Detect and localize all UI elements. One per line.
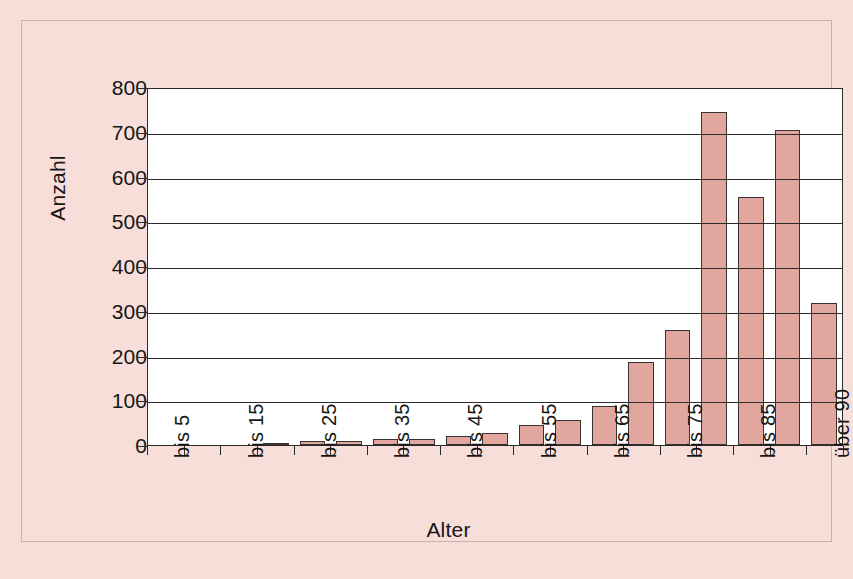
y-tick-label: 400 (73, 255, 147, 279)
bar-slot (367, 89, 404, 445)
x-tick-label-text: bis 35 (391, 403, 414, 458)
x-tick-label-text: bis 45 (464, 403, 487, 458)
x-tick-label-text: bis 5 (171, 415, 194, 458)
y-tick-mark (138, 222, 147, 223)
x-tick-mark (660, 446, 661, 455)
x-tick-label-text: bis 75 (684, 403, 707, 458)
x-tick-mark (513, 446, 514, 455)
y-tick-mark (138, 357, 147, 358)
y-tick-mark (138, 88, 147, 89)
bar-slot (769, 89, 806, 445)
gridline (148, 134, 842, 135)
x-tick-label-text: über 90 (831, 389, 853, 458)
y-tick-mark (138, 446, 147, 447)
bar-slot (733, 89, 770, 445)
y-tick-label: 500 (73, 210, 147, 234)
x-tick-label-text: bis 55 (538, 403, 561, 458)
bar-slot (294, 89, 331, 445)
x-tick-label-text: bis 15 (245, 403, 268, 458)
y-tick-mark (138, 178, 147, 179)
bar-slot (221, 89, 258, 445)
y-tick-mark (138, 133, 147, 134)
y-tick-label: 300 (73, 300, 147, 324)
x-tick-mark (294, 446, 295, 455)
bar-slot (586, 89, 623, 445)
bar-slot (477, 89, 514, 445)
bar-slot (550, 89, 587, 445)
bar-slot (513, 89, 550, 445)
y-axis: 8007006005004003002001000 (22, 88, 147, 446)
y-tick-label: 100 (73, 389, 147, 413)
plot-area (147, 88, 843, 446)
bar-slot (623, 89, 660, 445)
bar-slot (440, 89, 477, 445)
x-axis-title: Alter (22, 518, 853, 542)
x-tick-label-text: bis 85 (757, 403, 780, 458)
gridline (148, 358, 842, 359)
bar-slot (696, 89, 733, 445)
bar (701, 112, 727, 445)
bar-slot (185, 89, 222, 445)
gridline (148, 223, 842, 224)
gridline (148, 268, 842, 269)
y-tick-label: 200 (73, 345, 147, 369)
y-tick-label: 0 (73, 434, 147, 458)
y-tick-mark (138, 401, 147, 402)
x-tick-mark (220, 446, 221, 455)
x-tick-mark (733, 446, 734, 455)
x-tick-label-text: bis 25 (318, 403, 341, 458)
y-tick-label: 600 (73, 166, 147, 190)
bar-slot (148, 89, 185, 445)
bar-slot (258, 89, 295, 445)
x-tick-mark (806, 446, 807, 455)
chart-frame: Anzahl 8007006005004003002001000 bis 5bi… (21, 20, 832, 542)
gridline (148, 179, 842, 180)
bar (775, 130, 801, 445)
gridline (148, 313, 842, 314)
x-tick-mark (367, 446, 368, 455)
x-axis: bis 5bis 15bis 25bis 35bis 45bis 55bis 6… (147, 446, 843, 566)
x-tick-mark (440, 446, 441, 455)
y-tick-mark (138, 267, 147, 268)
x-tick-mark (587, 446, 588, 455)
x-tick-mark (147, 446, 148, 455)
y-tick-label: 700 (73, 121, 147, 145)
bar-series (148, 89, 842, 445)
bar-slot (659, 89, 696, 445)
bar-slot (404, 89, 441, 445)
x-tick-label-text: bis 65 (611, 403, 634, 458)
y-tick-mark (138, 312, 147, 313)
y-tick-label: 800 (73, 76, 147, 100)
bar-slot (331, 89, 368, 445)
